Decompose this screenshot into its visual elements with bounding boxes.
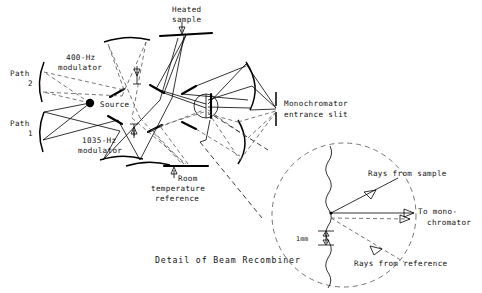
dbeam-upper-mirror-down-b — [132, 42, 146, 118]
monochromator-label-line1: Monochromator — [284, 99, 348, 108]
dbeam-source-to-path2-b — [43, 92, 90, 103]
dbeam-recombiner-to-collect-b — [208, 110, 248, 138]
detail-to-monochromator-label-line1: To mono- — [418, 207, 457, 216]
beam-recombiner-to-collect-b — [208, 107, 250, 108]
beam-sample-to-fold-a — [156, 35, 186, 89]
room-ref-label-line2: temperature — [151, 184, 205, 193]
upper-collection-mirror — [246, 62, 255, 110]
modulator-400-label-line2: modulator — [58, 63, 102, 72]
path1-label-line2: 1 — [28, 129, 33, 138]
upper-collimating-mirror — [104, 37, 150, 42]
path2-label-line1: Path — [10, 69, 30, 78]
detail-leader-elbow — [200, 120, 210, 142]
modulator-1035-label-line2: modulator — [78, 146, 122, 155]
path2-label-line2: 2 — [28, 79, 33, 88]
heated-sample-label-line2: sample — [172, 15, 202, 24]
dbeam-ref-to-fold-a — [152, 130, 184, 164]
detail-rays-from-sample-label: Rays from sample — [368, 169, 447, 178]
beam-collect-to-slit-a — [246, 64, 276, 108]
heated-sample-label-line1: Heated — [172, 5, 202, 14]
detail-ray-sample — [331, 178, 398, 213]
modulator-400-blade — [133, 72, 141, 84]
modulator-400-label-line1: 400-Hz — [66, 53, 96, 62]
detail-leader-lower — [200, 142, 262, 218]
source-label: Source — [100, 100, 130, 109]
path1-mirror — [40, 112, 44, 152]
detail-knife-edge — [326, 146, 332, 288]
dbeam-path2-out-a — [44, 72, 124, 90]
room-ref-label-line3: reference — [155, 194, 199, 203]
beam-collect-to-slit-b — [252, 86, 276, 108]
dbeam-collect-to-slit-b — [248, 112, 276, 138]
detail-ray-to-mono-dashed — [331, 218, 410, 219]
monochromator-label-line2: entrance slit — [284, 110, 348, 119]
schematic-drawing: Heated sample 400-Hz modulator 1035-Hz m… — [0, 0, 482, 293]
dbeam-fold-down-to-collect — [196, 129, 240, 156]
dbeam-recombiner-to-collect-c — [208, 114, 238, 122]
detail-rays-from-reference-label: Rays from reference — [354, 259, 448, 268]
detail-ray-reference — [331, 218, 404, 262]
dbeam-source-to-path2-a — [44, 72, 90, 103]
beam-path1-out-a — [44, 112, 120, 131]
detail-to-monochromator-label-line2: chromator — [427, 218, 471, 227]
modulator-1035-label-line1: 1035-Hz — [82, 136, 116, 145]
room-ref-label-line1: Room — [178, 174, 198, 183]
source-point — [86, 99, 94, 107]
dbeam-to-upper-mirror-a — [108, 44, 124, 90]
path1-label-line1: Path — [10, 119, 30, 128]
recombiner-lower-fold-mirror — [182, 122, 196, 129]
figure-caption: Detail of Beam Recombiner — [155, 255, 301, 265]
beam-collect-to-slit-c — [250, 109, 276, 110]
recombiner-upper-fold-mirror — [182, 86, 196, 94]
dbeam-path2-out-b — [43, 92, 122, 96]
path2-mirror — [39, 62, 44, 102]
beam-source-to-path1-mirror — [44, 103, 90, 112]
beam-fold-up-to-collect — [196, 66, 246, 86]
beam-fold-across — [182, 94, 248, 100]
optical-schematic-figure: Heated sample 400-Hz modulator 1035-Hz m… — [0, 0, 482, 293]
detail-dimension-label: 1mm — [296, 235, 309, 243]
beam-recombiner-to-collect-c — [208, 86, 252, 100]
dbeam-collect-to-slit-c — [238, 111, 276, 122]
